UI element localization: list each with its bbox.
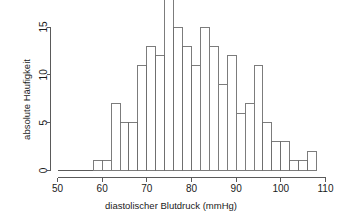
histogram-bar xyxy=(209,46,218,170)
histogram-bar xyxy=(138,65,147,170)
histogram-bar xyxy=(174,27,183,171)
histogram-bar xyxy=(120,123,129,171)
y-axis-tick-label: 15 xyxy=(38,21,49,33)
histogram-bar xyxy=(129,123,138,171)
histogram-bar xyxy=(165,0,174,170)
histogram-bar xyxy=(245,104,254,171)
histogram-bar xyxy=(93,161,102,171)
histogram-bar xyxy=(299,161,308,171)
x-axis-tick-label: 110 xyxy=(318,183,334,194)
x-axis-tick-label: 90 xyxy=(231,183,243,194)
x-axis-tick-label: 60 xyxy=(97,183,109,194)
x-axis-title: diastolischer Blutdruck (mmHg) xyxy=(0,200,342,211)
histogram-figure: 0510155060708090100110 diastolischer Blu… xyxy=(0,0,342,221)
histogram-bar xyxy=(227,56,236,171)
histogram-bar xyxy=(183,46,192,170)
y-axis-tick-label: 0 xyxy=(38,167,49,173)
histogram-bar xyxy=(192,65,201,170)
x-axis-tick-label: 50 xyxy=(52,183,64,194)
histogram-bar xyxy=(102,161,111,171)
x-axis-tick-label: 80 xyxy=(186,183,198,194)
y-axis-tick-label: 10 xyxy=(38,69,49,81)
histogram-bar xyxy=(236,113,245,170)
y-axis-title: absolute Häufigkeit xyxy=(21,20,32,180)
x-axis-tick-label: 100 xyxy=(272,183,289,194)
histogram-bar xyxy=(263,123,272,171)
histogram-bar xyxy=(218,84,227,170)
bars-group xyxy=(93,0,316,170)
histogram-bar xyxy=(308,151,317,170)
histogram-bar xyxy=(281,142,290,171)
histogram-bar xyxy=(290,161,299,171)
histogram-bar xyxy=(254,65,263,170)
histogram-bar xyxy=(272,142,281,171)
histogram-bar xyxy=(147,46,156,170)
histogram-bar xyxy=(200,27,209,171)
histogram-bar xyxy=(111,104,120,171)
y-axis-tick-label: 5 xyxy=(38,119,49,125)
histogram-bar xyxy=(156,56,165,171)
x-axis-tick-label: 70 xyxy=(141,183,153,194)
plot-svg: 0510155060708090100110 xyxy=(0,0,342,221)
